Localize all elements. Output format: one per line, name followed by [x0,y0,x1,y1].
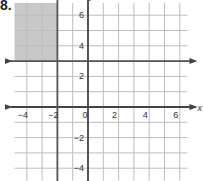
shaded-area [15,3,58,61]
shaded-region [15,3,58,61]
y-tick-label: −4 [74,163,84,173]
x-axis-label: x [196,103,202,113]
x-tick-label: −2 [48,110,58,120]
x-tick-label: 2 [112,110,117,120]
x-tick-label: 6 [173,110,178,120]
y-axis-label: y [88,0,94,1]
y-tick-label: 4 [79,41,84,51]
y-tick-label: 2 [79,71,84,81]
coordinate-plane: −4−20246642−2−4xy [0,0,203,181]
x-tick-label: −4 [18,110,28,120]
x-tick-label: 4 [143,110,148,120]
y-tick-label: −2 [74,133,84,143]
y-tick-label: 6 [79,10,84,20]
x-tick-label: 0 [82,110,87,120]
